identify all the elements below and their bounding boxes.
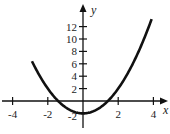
y-tick-label: 4 xyxy=(72,70,78,82)
axes xyxy=(2,4,168,128)
y-tick-label: 12 xyxy=(66,21,77,33)
y-tick-label: 8 xyxy=(72,45,78,57)
y-tick-label: 2 xyxy=(72,83,78,95)
x-axis-label: x xyxy=(162,103,169,117)
y-axis-label: y xyxy=(90,3,97,17)
parabola-curve xyxy=(32,19,152,113)
x-tick-label: -4 xyxy=(8,108,18,120)
x-tick-label: 2 xyxy=(115,108,121,120)
parabola-chart: -4-22424681012-2xy xyxy=(0,0,170,134)
y-axis-arrow-icon xyxy=(80,4,87,12)
y-tick-label-neg2: -2 xyxy=(68,110,77,122)
x-tick-label: -2 xyxy=(43,108,52,120)
chart-svg: -4-22424681012-2xy xyxy=(0,0,170,134)
y-tick-label: 6 xyxy=(72,58,78,70)
x-tick-label: 4 xyxy=(151,108,157,120)
y-tick-label: 10 xyxy=(66,33,78,45)
